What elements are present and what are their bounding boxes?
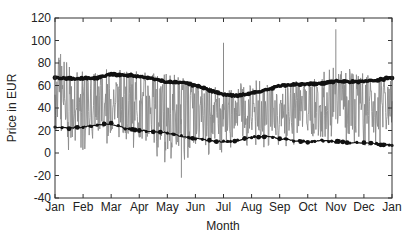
x-tick-label: Nov [325,200,346,214]
y-tick-label: 0 [44,146,51,160]
x-tick-label: Apr [130,200,149,214]
x-tick-label: Jan [45,200,64,214]
x-tick-label: Aug [241,200,262,214]
price-chart: -40-20020406080100120 JanFebMarAprMayJun… [0,0,414,240]
y-tick-label: 20 [38,124,52,138]
x-tick-label: Sep [269,200,291,214]
x-tick-label: Jul [216,200,231,214]
x-tick-label: Mar [101,200,122,214]
x-tick-label: Oct [298,200,317,214]
x-tick-label: Dec [353,200,374,214]
lower-curve [53,121,393,147]
y-axis-title: Price in EUR [5,73,19,142]
y-tick-label: 80 [38,56,52,70]
x-tick-label: May [156,200,179,214]
y-tick-label: -20 [34,169,52,183]
y-tick-label: 60 [38,79,52,93]
y-tick-label: 40 [38,101,52,115]
y-tick-label: 120 [31,11,51,25]
x-tick-label: Jun [186,200,205,214]
x-axis-title: Month [206,219,239,233]
y-tick-label: 100 [31,34,51,48]
x-tick-label: Jan [382,200,401,214]
gray-series [55,29,392,178]
x-tick-label: Feb [73,200,94,214]
